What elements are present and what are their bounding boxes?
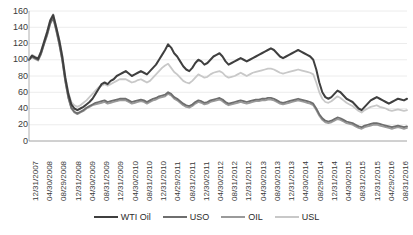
legend-item[interactable]: USO: [163, 213, 210, 222]
oil-price-line-chart: 020406080100120140160 12/31/200704/30/20…: [0, 0, 413, 235]
legend-swatch-icon: [275, 216, 299, 218]
x-axis-tick: 08/31/2015: [359, 161, 367, 201]
series-line: [29, 15, 407, 110]
x-axis-tick: 04/29/2016: [388, 161, 396, 201]
x-axis-tick: 12/30/2011: [203, 162, 211, 201]
legend-item[interactable]: OIL: [221, 213, 263, 222]
legend-swatch-icon: [94, 216, 118, 218]
x-axis-tick: 08/29/2008: [60, 161, 68, 201]
y-axis-tick: 120: [2, 39, 28, 48]
y-axis-tick: 140: [2, 23, 28, 32]
x-axis-tick: 04/30/2013: [260, 161, 268, 201]
chart-legend: WTI OilUSOOILUSL: [0, 206, 413, 228]
x-axis-tick: 04/30/2014: [302, 161, 310, 201]
x-axis-tick: 12/31/2008: [75, 161, 83, 201]
legend-swatch-icon: [163, 216, 187, 218]
x-axis-tick: 04/30/2009: [89, 161, 97, 201]
series-group: [29, 14, 407, 129]
x-axis-tick: 08/31/2012: [231, 161, 239, 201]
gridlines-group: [29, 11, 407, 141]
x-axis-tick: 04/30/2015: [345, 161, 353, 201]
x-axis-tick: 08/29/2014: [317, 161, 325, 201]
x-axis-tick-labels: 12/31/200704/30/200808/29/200812/31/2008…: [0, 141, 413, 205]
x-axis-tick: 12/31/2015: [374, 161, 382, 201]
y-axis-tick: 160: [2, 7, 28, 16]
x-axis-tick: 08/31/2010: [146, 161, 154, 201]
legend-item[interactable]: WTI Oil: [94, 213, 151, 222]
legend-label: OIL: [248, 213, 263, 222]
plot-area-wrapper: 020406080100120140160: [0, 0, 413, 150]
x-axis-tick: 04/30/2010: [132, 161, 140, 201]
legend-label: USO: [190, 213, 210, 222]
y-axis-tick: 20: [2, 120, 28, 129]
series-line: [29, 18, 407, 129]
x-axis-tick: 04/29/2011: [174, 162, 182, 201]
x-axis-tick: 12/31/2014: [331, 161, 339, 201]
x-axis-tick: 04/30/2012: [217, 161, 225, 201]
x-axis-tick: 04/30/2008: [46, 161, 54, 201]
legend-item[interactable]: USL: [275, 213, 320, 222]
y-axis-tick: 100: [2, 55, 28, 64]
y-axis-tick: 40: [2, 104, 28, 113]
y-axis-tick: 60: [2, 88, 28, 97]
x-axis-tick: 12/31/2013: [288, 161, 296, 201]
x-axis-tick: 12/31/2012: [245, 161, 253, 201]
x-axis-tick: 08/31/2009: [103, 161, 111, 201]
plot-svg: [0, 0, 413, 150]
x-axis-tick: 12/31/2007: [32, 161, 40, 201]
y-axis-tick: 80: [2, 72, 28, 81]
x-axis-tick: 08/30/2013: [274, 161, 282, 201]
x-axis-tick: 08/31/2011: [189, 162, 197, 201]
x-axis-tick: 12/31/2009: [117, 161, 125, 201]
x-axis-tick: 12/31/2010: [160, 161, 168, 201]
legend-label: USL: [302, 213, 320, 222]
legend-swatch-icon: [221, 216, 245, 218]
y-axis-tick-labels: 020406080100120140160: [0, 0, 28, 150]
x-axis-tick: 08/31/2016: [402, 161, 410, 201]
legend-label: WTI Oil: [121, 213, 151, 222]
